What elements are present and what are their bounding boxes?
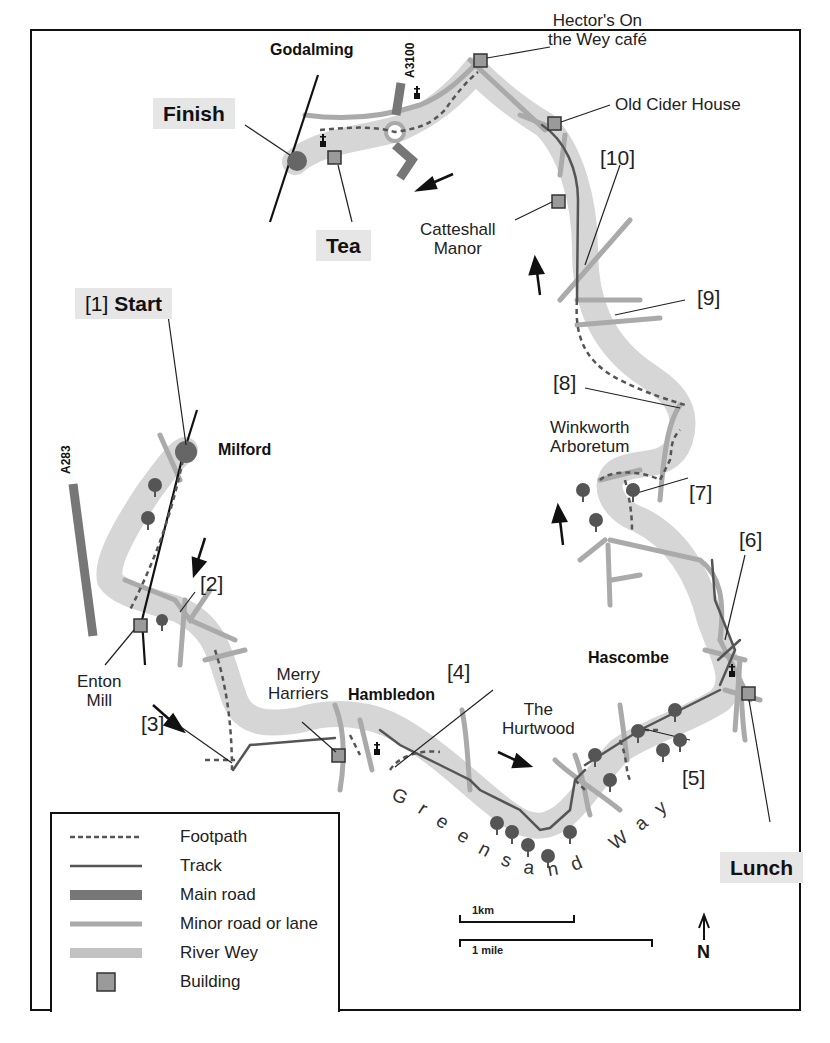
place-hascombe: Hascombe [588, 648, 669, 667]
building-old-cider-house [548, 117, 561, 130]
road-a283-label: A283 [59, 445, 73, 474]
label-the-hurtwood: The Hurtwood [502, 700, 575, 738]
tree-icon [673, 733, 687, 752]
building-tea [328, 151, 341, 164]
building-enton-mill [134, 619, 147, 632]
waypoint-3: [3] [141, 714, 164, 733]
waypoint-7: [7] [689, 483, 712, 502]
arrow-icon [418, 174, 453, 190]
legend-footpath: Footpath [52, 827, 247, 847]
start-text: Start [114, 292, 162, 315]
main-road-symbol-icon [70, 889, 142, 901]
legend-track: Track [52, 856, 222, 876]
tree-icon [141, 511, 155, 530]
tree-icon [589, 513, 603, 532]
tree-icon [563, 825, 577, 844]
tree-icon [505, 825, 519, 844]
footpath-symbol-icon [70, 834, 142, 840]
waypoint-6: [6] [739, 530, 762, 549]
minor-roads [125, 60, 760, 815]
scale-bars [460, 915, 652, 947]
arrow-icon [498, 752, 530, 767]
place-hambledon: Hambledon [348, 685, 435, 704]
finish-marker-icon [287, 151, 307, 171]
church-icon [374, 742, 380, 755]
track-symbol-icon [70, 863, 142, 869]
scale-mile-label: 1 mile [472, 944, 503, 956]
road-a3100-label: A3100 [403, 42, 417, 78]
waypoint-4: [4] [447, 662, 470, 681]
label-winkworth-arboretum: Winkworth Arboretum [550, 418, 629, 456]
waypoint-9: [9] [697, 288, 720, 307]
building-symbol-icon [70, 972, 142, 992]
river-symbol-icon [70, 947, 142, 959]
tree-icon [490, 816, 504, 835]
arrow-icon [193, 538, 205, 575]
legend-main-road: Main road [52, 885, 256, 905]
label-old-cider-house: Old Cider House [615, 95, 741, 114]
legend-building: Building [52, 972, 241, 992]
tree-icon [603, 773, 617, 792]
tree-icon [656, 743, 670, 762]
scale-km-label: 1km [472, 904, 494, 916]
arrow-icon [553, 506, 566, 545]
label-catteshall-manor: Catteshall Manor [420, 220, 496, 258]
legend-river-wey: River Wey [52, 943, 258, 963]
tree-icon [521, 838, 535, 857]
lunch-label: Lunch [720, 852, 803, 883]
building-hectors [474, 54, 487, 67]
finish-label: Finish [153, 98, 235, 129]
label-enton-mill: Enton Mill [77, 672, 121, 710]
place-godalming: Godalming [270, 40, 354, 59]
church-icon [414, 86, 420, 99]
legend-minor-road: Minor road or lane [52, 914, 318, 934]
tree-icon [576, 483, 590, 502]
label-hectors-cafe: Hector's On the Wey café [548, 11, 647, 49]
arrow-icon [530, 258, 543, 295]
place-milford: Milford [218, 440, 271, 459]
river-wey [109, 70, 728, 826]
waypoint-8: [8] [553, 373, 576, 392]
map-legend: Footpath Track Main road Minor road or l… [50, 812, 340, 1012]
building-catteshall [552, 195, 565, 208]
north-label: N [697, 942, 710, 963]
tea-label: Tea [316, 230, 371, 261]
north-arrow-icon [699, 915, 709, 940]
waypoint-5: [5] [682, 768, 705, 787]
start-label: [1] Start [75, 288, 172, 319]
building-lunch [742, 687, 755, 700]
start-step-number: [1] [85, 292, 108, 315]
waypoint-10: [10] [600, 148, 635, 167]
minor-road-symbol-icon [70, 920, 142, 928]
tree-icon [156, 614, 168, 631]
label-merry-harriers: Merry Harriers [268, 665, 328, 703]
waypoint-2: [2] [200, 574, 223, 593]
